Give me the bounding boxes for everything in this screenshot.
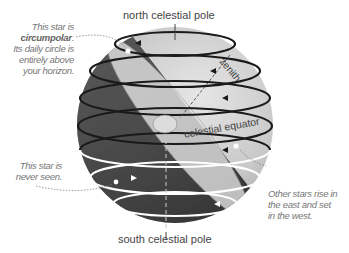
circumpolar-note: This star is circumpolar. Its daily circ… (4, 21, 74, 76)
north-pole-label: north celestial pole (123, 9, 215, 21)
never-seen-note: This star is never seen. (4, 160, 62, 182)
circumpolar-star (125, 48, 130, 53)
observer-dome (153, 115, 177, 133)
rising-star (233, 143, 238, 148)
never-seen-star (114, 180, 119, 185)
rise-set-note: Other stars rise in the east and set in … (268, 188, 337, 221)
south-pole-label: south celestial pole (118, 233, 212, 245)
